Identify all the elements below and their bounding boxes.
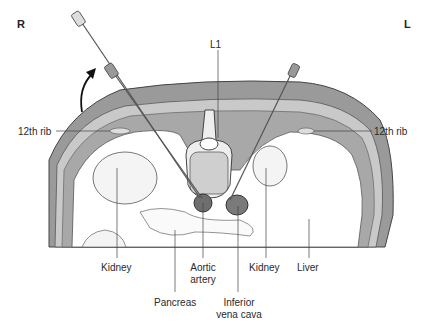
- ivc-shape: [226, 195, 248, 215]
- kidney-right-shape: [93, 152, 157, 204]
- label-ivc-line1: Inferior: [215, 297, 263, 309]
- label-12th-rib-left: 12th rib: [374, 126, 407, 138]
- label-12th-rib-right: 12th rib: [18, 126, 51, 138]
- label-aortic-line2: artery: [188, 274, 218, 286]
- label-inferior-vena-cava: Inferior vena cava: [215, 297, 263, 321]
- kidney-left-shape: [253, 146, 287, 186]
- arrow-head-icon: [86, 68, 96, 79]
- needle-hub-3: [287, 63, 300, 78]
- label-kidney-left: Kidney: [249, 262, 280, 274]
- label-pancreas: Pancreas: [154, 297, 196, 309]
- spinal-canal: [200, 138, 218, 150]
- label-aortic-line1: Aortic: [188, 262, 218, 274]
- label-liver: Liver: [297, 262, 319, 274]
- label-ivc-line2: vena cava: [215, 309, 263, 321]
- rib-right: [110, 128, 130, 134]
- label-aortic-artery: Aortic artery: [188, 262, 218, 286]
- orientation-left: L: [404, 18, 411, 30]
- label-kidney-right: Kidney: [101, 262, 132, 274]
- vertebral-body: [190, 152, 228, 194]
- orientation-right: R: [17, 18, 25, 30]
- rib-left: [298, 128, 314, 134]
- label-l1: L1: [210, 39, 221, 51]
